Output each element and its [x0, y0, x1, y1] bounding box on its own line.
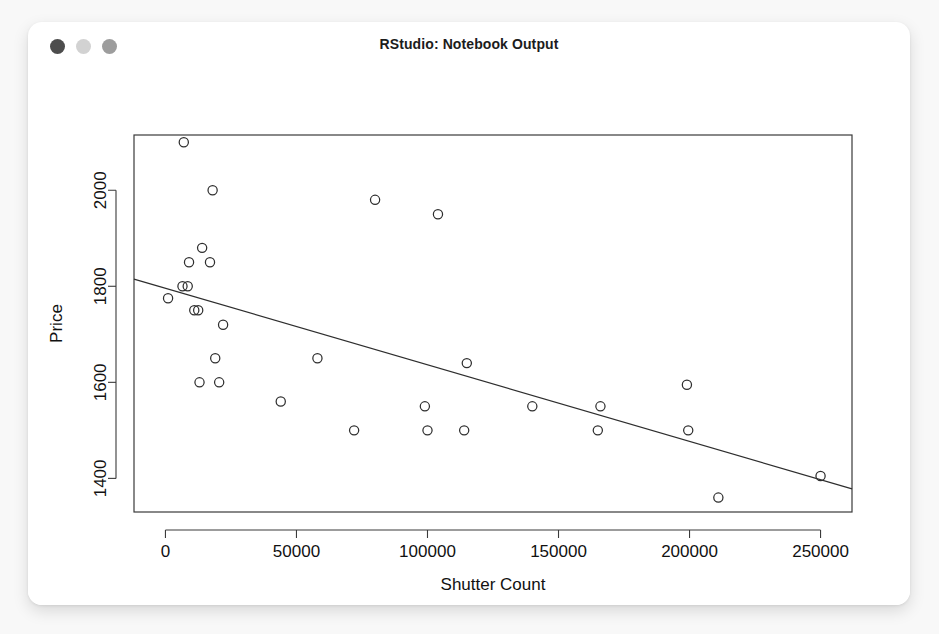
data-point	[593, 426, 602, 435]
data-point	[313, 354, 322, 363]
y-axis-tick-label: 1400	[91, 459, 110, 497]
data-point	[596, 402, 605, 411]
data-point	[528, 402, 537, 411]
x-axis-title: Shutter Count	[441, 575, 546, 594]
data-point	[684, 426, 693, 435]
x-axis-tick-label: 50000	[273, 542, 320, 561]
y-axis-tick-label: 2000	[91, 171, 110, 209]
x-axis-tick-label: 200000	[661, 542, 718, 561]
rstudio-notebook-window: RStudio: Notebook Output 050000100000150…	[28, 22, 910, 605]
window-titlebar[interactable]: RStudio: Notebook Output	[28, 22, 910, 70]
data-point	[350, 426, 359, 435]
x-axis-tick-label: 150000	[530, 542, 587, 561]
y-axis-tick-label: 1800	[91, 267, 110, 305]
data-point	[218, 320, 227, 329]
data-point	[163, 294, 172, 303]
scatter-plot: 0500001000001500002000002500001400160018…	[28, 70, 910, 605]
data-point	[370, 195, 379, 204]
data-point	[433, 210, 442, 219]
data-point	[460, 426, 469, 435]
data-point	[179, 138, 188, 147]
data-point	[215, 378, 224, 387]
data-point	[178, 282, 187, 291]
data-point	[420, 402, 429, 411]
data-point	[211, 354, 220, 363]
data-point	[195, 378, 204, 387]
data-point	[184, 258, 193, 267]
y-axis-title: Price	[47, 304, 66, 343]
data-point	[682, 380, 691, 389]
data-point	[462, 359, 471, 368]
data-point	[276, 397, 285, 406]
data-point	[198, 243, 207, 252]
x-axis-tick-label: 250000	[792, 542, 849, 561]
data-point	[208, 186, 217, 195]
data-point	[423, 426, 432, 435]
screenshot-root: RStudio: Notebook Output 050000100000150…	[0, 0, 939, 634]
window-title: RStudio: Notebook Output	[28, 36, 910, 52]
x-axis-tick-label: 100000	[399, 542, 456, 561]
regression-line	[134, 279, 852, 489]
notebook-output-pane: 0500001000001500002000002500001400160018…	[28, 70, 910, 605]
data-point	[714, 493, 723, 502]
x-axis-tick-label: 0	[161, 542, 170, 561]
data-point	[205, 258, 214, 267]
y-axis-tick-label: 1600	[91, 363, 110, 401]
plot-frame	[134, 135, 852, 512]
data-point	[183, 282, 192, 291]
